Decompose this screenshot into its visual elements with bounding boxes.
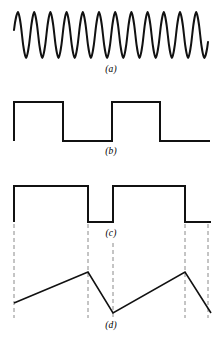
panel-label-c: (c) bbox=[91, 228, 131, 238]
panel-a-sine-wave bbox=[14, 12, 208, 58]
waveform-figure: (a) (b) (c) (d) bbox=[0, 0, 222, 344]
panel-label-b: (b) bbox=[91, 146, 131, 156]
alignment-dashed-lines bbox=[14, 224, 208, 318]
panel-b-square-wave bbox=[14, 102, 210, 141]
panel-c-pulse-wave bbox=[14, 186, 211, 222]
panel-label-a: (a) bbox=[91, 64, 131, 74]
pulse-wave-path bbox=[14, 186, 211, 222]
panel-label-d: (d) bbox=[91, 320, 131, 330]
sine-wave-path bbox=[14, 12, 208, 58]
waveform-canvas bbox=[0, 0, 222, 344]
square-wave-path bbox=[14, 102, 210, 141]
